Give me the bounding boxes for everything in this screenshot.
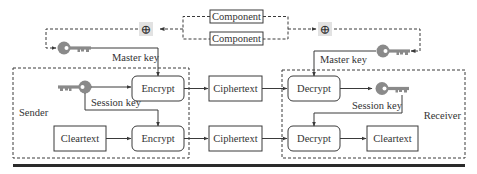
sender-cleartext-label: Cleartext [61, 133, 100, 144]
ciphertext-data-box: Ciphertext [209, 126, 262, 151]
sender-session-key-icon [58, 81, 92, 94]
sender-master-key-label: Master key [112, 52, 160, 63]
receiver-decrypt-key-box: Decrypt [288, 76, 340, 101]
receiver-session-key-icon [376, 82, 410, 95]
key-distribution-diagram: Component Component ⊕ ⊕ Master key Sende… [0, 0, 477, 174]
sender-encrypt-key-label: Encrypt [141, 83, 174, 94]
sender-encrypt-key-box: Encrypt [132, 76, 184, 101]
component-bottom-label: Component [212, 33, 261, 44]
ciphertext-key-box: Ciphertext [209, 76, 262, 101]
ciphertext-data-label: Ciphertext [213, 133, 257, 144]
sender-encrypt-data-box: Encrypt [132, 126, 184, 151]
receiver-label: Receiver [424, 110, 462, 121]
component-bottom-box: Component [210, 32, 263, 45]
receiver-cleartext-label: Cleartext [373, 133, 412, 144]
receiver-master-key-label: Master key [320, 54, 368, 65]
sender-master-key-icon [58, 42, 92, 55]
sender-cleartext-box: Cleartext [54, 126, 106, 151]
sender-label: Sender [19, 107, 49, 118]
xor-right-symbol: ⊕ [320, 22, 331, 37]
sender-encrypt-data-label: Encrypt [141, 133, 174, 144]
xor-left: ⊕ [139, 22, 153, 37]
receiver-decrypt-data-box: Decrypt [288, 126, 340, 151]
receiver-decrypt-data-label: Decrypt [297, 133, 331, 144]
receiver-decrypt-key-label: Decrypt [297, 83, 331, 94]
receiver-master-key-icon [377, 45, 411, 58]
xor-right: ⊕ [318, 22, 332, 37]
xor-left-symbol: ⊕ [141, 22, 152, 37]
bottom-rule [13, 164, 465, 167]
ciphertext-key-label: Ciphertext [213, 83, 257, 94]
receiver-cleartext-box: Cleartext [367, 126, 418, 151]
component-top-label: Component [212, 11, 261, 22]
receiver-session-key-label: Session key [352, 100, 403, 111]
component-top-box: Component [210, 10, 263, 23]
